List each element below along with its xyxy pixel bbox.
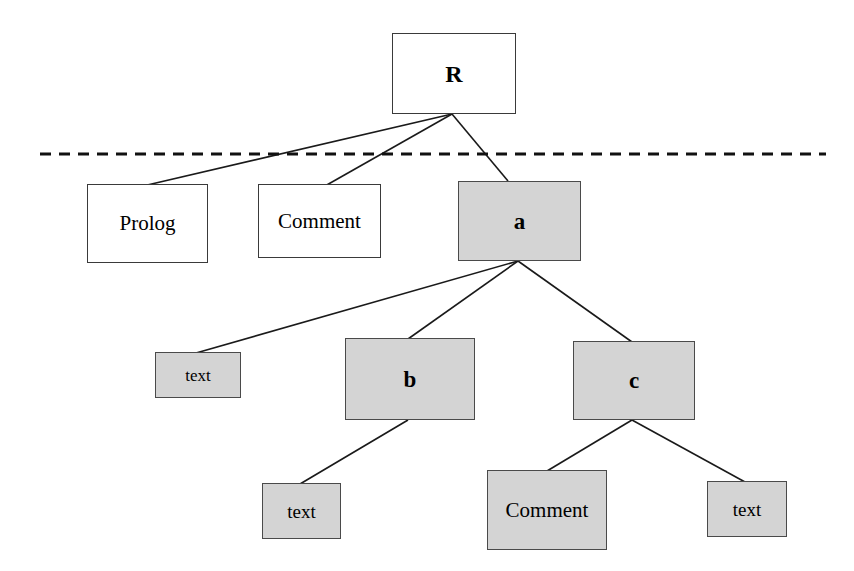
tree-node-text-a[interactable]: text bbox=[155, 352, 241, 398]
tree-edge-root-to-prolog bbox=[143, 114, 452, 186]
tree-node-c[interactable]: c bbox=[573, 341, 695, 420]
tree-diagram-canvas: RPrologCommentatextbctextCommenttext bbox=[0, 0, 854, 571]
tree-edge-a-to-b bbox=[408, 261, 518, 339]
tree-edge-root-to-comment-top bbox=[325, 114, 452, 186]
tree-node-comment-c[interactable]: Comment bbox=[487, 470, 607, 550]
tree-edge-a-to-c bbox=[518, 261, 632, 342]
tree-node-comment-top[interactable]: Comment bbox=[258, 184, 381, 258]
tree-node-label-c: c bbox=[629, 369, 639, 392]
tree-edge-root-to-a bbox=[452, 114, 508, 181]
tree-node-text-b[interactable]: text bbox=[262, 483, 341, 539]
tree-node-label-prolog: Prolog bbox=[119, 213, 175, 234]
tree-node-label-text-a: text bbox=[185, 367, 211, 384]
tree-edge-c-to-text-c bbox=[632, 420, 745, 482]
tree-node-text-c[interactable]: text bbox=[707, 481, 787, 537]
tree-node-label-comment-c: Comment bbox=[506, 500, 589, 521]
tree-node-label-text-c: text bbox=[733, 500, 762, 519]
tree-node-root[interactable]: R bbox=[392, 33, 516, 114]
tree-node-label-a: a bbox=[514, 210, 526, 233]
tree-node-label-b: b bbox=[404, 368, 417, 391]
tree-edge-c-to-comment-c bbox=[547, 420, 632, 471]
tree-node-label-root: R bbox=[445, 62, 462, 86]
tree-node-label-comment-top: Comment bbox=[278, 211, 361, 232]
tree-node-prolog[interactable]: Prolog bbox=[87, 184, 208, 263]
tree-node-b[interactable]: b bbox=[345, 338, 475, 420]
tree-node-a[interactable]: a bbox=[458, 181, 581, 261]
tree-edge-b-to-text-b bbox=[300, 420, 408, 484]
tree-node-label-text-b: text bbox=[287, 502, 316, 521]
